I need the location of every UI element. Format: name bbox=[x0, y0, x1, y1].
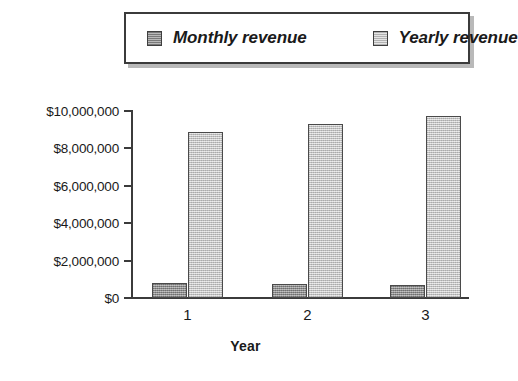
y-axis-tick bbox=[124, 297, 132, 299]
bar-monthly-year-1[interactable] bbox=[152, 283, 187, 298]
x-axis-label-2: 2 bbox=[278, 306, 338, 323]
bar-yearly-year-1[interactable] bbox=[188, 132, 223, 298]
y-axis-tick bbox=[124, 147, 132, 149]
x-axis-label-3: 3 bbox=[396, 306, 456, 323]
y-axis-label: $2,000,000 bbox=[53, 253, 119, 268]
y-axis-tick bbox=[124, 185, 132, 187]
x-axis-label-1: 1 bbox=[158, 306, 218, 323]
y-axis-tick bbox=[124, 222, 132, 224]
y-axis-line bbox=[131, 110, 133, 299]
y-axis-label: $8,000,000 bbox=[53, 141, 119, 156]
y-axis-label: $4,000,000 bbox=[53, 216, 119, 231]
bar-monthly-year-2[interactable] bbox=[272, 284, 307, 298]
bar-yearly-year-3[interactable] bbox=[426, 116, 461, 298]
y-axis-label: $6,000,000 bbox=[53, 178, 119, 193]
bar-monthly-year-3[interactable] bbox=[390, 285, 425, 298]
bar-yearly-year-2[interactable] bbox=[308, 124, 343, 298]
x-axis-title: Year bbox=[0, 338, 491, 354]
y-axis-label: $10,000,000 bbox=[46, 104, 119, 119]
y-axis-tick bbox=[124, 260, 132, 262]
y-axis-label: $0 bbox=[104, 291, 119, 306]
y-axis-tick bbox=[124, 110, 132, 112]
